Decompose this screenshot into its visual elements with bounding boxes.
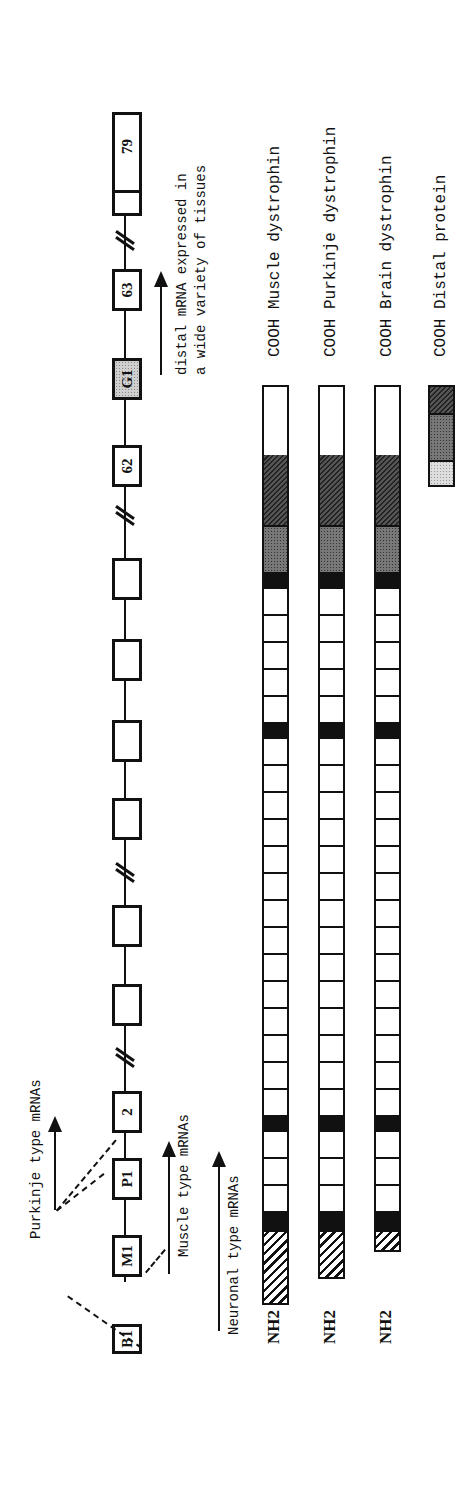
exon bbox=[112, 720, 142, 762]
exon-79: 79 bbox=[112, 112, 142, 216]
exon-label: G1 bbox=[119, 369, 136, 388]
domain-hinge bbox=[264, 1211, 287, 1230]
domain-nterm bbox=[264, 1230, 287, 1303]
domain-hinge bbox=[376, 722, 399, 737]
exon bbox=[112, 798, 142, 840]
domain-hinge bbox=[264, 1115, 287, 1130]
arrow-head-icon bbox=[212, 1151, 226, 1167]
protein-nterm: NH2 bbox=[264, 1310, 284, 1344]
neuronal-label: Neuronal type mRNAs bbox=[226, 1175, 242, 1335]
protein-nterm: NH2 bbox=[376, 1310, 396, 1344]
exon-label: 2 bbox=[119, 1108, 136, 1116]
exon-label: 79 bbox=[119, 139, 136, 154]
muscle-dystrophin-bar bbox=[262, 385, 289, 1305]
exon-2: 2 bbox=[112, 1091, 142, 1133]
dystrophin-gene-figure: B1 M1 P1 2 62 G1 63 79 Purkinje type mRN… bbox=[0, 0, 458, 1487]
muscle-arrow-line bbox=[168, 1154, 170, 1274]
domain-cys-rich bbox=[320, 525, 343, 572]
distal-label-line2: a wide variety of tissues bbox=[193, 165, 209, 375]
exon bbox=[112, 639, 142, 681]
exon-63: 63 bbox=[112, 269, 142, 311]
domain-cys-rich bbox=[430, 413, 453, 460]
exon-g1: G1 bbox=[112, 358, 142, 400]
domain-hinge bbox=[320, 1211, 343, 1230]
domain-cys-rich bbox=[264, 525, 287, 572]
domain-hinge bbox=[376, 1115, 399, 1130]
protein-cterm: COOH bbox=[432, 319, 450, 357]
neuronal-connector bbox=[67, 1295, 142, 1348]
protein-nterm: NH2 bbox=[320, 1310, 340, 1344]
exon-label: 62 bbox=[119, 459, 136, 474]
purkinje-arrow-line bbox=[54, 1130, 56, 1210]
exon bbox=[112, 984, 142, 1026]
domain-hinge bbox=[320, 722, 343, 737]
exon bbox=[112, 558, 142, 600]
distal-label-line1: distal mRNA expressed in bbox=[174, 173, 190, 375]
distal-protein-bar bbox=[428, 385, 455, 487]
domain-nterm bbox=[320, 1230, 343, 1277]
domain-hinge bbox=[320, 1115, 343, 1130]
arrow-head-icon bbox=[162, 1141, 176, 1157]
protein-cterm: COOH bbox=[266, 319, 284, 357]
domain-hinge bbox=[264, 572, 287, 587]
domain-cterm bbox=[264, 455, 287, 525]
exon-label: M1 bbox=[119, 1245, 136, 1267]
protein-name: Muscle dystrophin bbox=[266, 146, 284, 309]
exon-m1: M1 bbox=[112, 1235, 142, 1277]
purkinje-label: Purkinje type mRNAs bbox=[28, 1079, 44, 1239]
muscle-connector bbox=[145, 1249, 166, 1273]
arrow-head-icon bbox=[48, 1116, 62, 1132]
domain-cterm bbox=[376, 455, 399, 525]
muscle-label: Muscle type mRNAs bbox=[176, 1114, 192, 1257]
domain-hinge bbox=[376, 572, 399, 587]
distal-arrow-line bbox=[160, 285, 162, 375]
exon-label: P1 bbox=[119, 1171, 136, 1188]
domain-hinge bbox=[264, 722, 287, 737]
exon-p1: P1 bbox=[112, 1158, 142, 1200]
purkinje-dystrophin-bar bbox=[318, 385, 345, 1279]
exon-79-divider bbox=[115, 190, 139, 193]
domain-hinge bbox=[320, 572, 343, 587]
domain-cterm bbox=[430, 387, 453, 413]
domain-hinge bbox=[376, 1211, 399, 1230]
domain-cterm bbox=[320, 455, 343, 525]
exon bbox=[112, 905, 142, 947]
exon-label: 63 bbox=[119, 283, 136, 298]
protein-name: Purkinje dystrophin bbox=[322, 127, 340, 309]
domain-unique-nterm bbox=[430, 460, 453, 485]
domain-nterm bbox=[376, 1230, 399, 1250]
brain-dystrophin-bar bbox=[374, 385, 401, 1252]
protein-cterm: COOH bbox=[322, 319, 340, 357]
protein-cterm: COOH bbox=[378, 319, 396, 357]
exon-62: 62 bbox=[112, 445, 142, 487]
neuronal-arrow-line bbox=[218, 1164, 220, 1331]
purkinje-connector bbox=[56, 1140, 117, 1212]
protein-name: Brain dystrophin bbox=[378, 155, 396, 309]
purkinje-connector bbox=[56, 1173, 105, 1212]
domain-cys-rich bbox=[376, 525, 399, 572]
protein-name: Distal protein bbox=[432, 175, 450, 309]
arrow-head-icon bbox=[154, 271, 168, 287]
